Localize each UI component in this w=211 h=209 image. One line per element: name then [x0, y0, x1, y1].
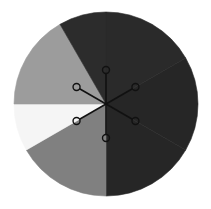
color-wheel	[0, 0, 211, 209]
